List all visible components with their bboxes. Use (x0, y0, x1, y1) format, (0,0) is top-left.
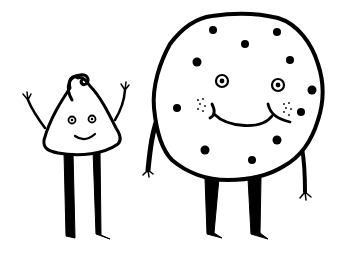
illustration (0, 0, 342, 261)
cookie-body (154, 14, 323, 180)
chip-left-leg (64, 152, 75, 238)
